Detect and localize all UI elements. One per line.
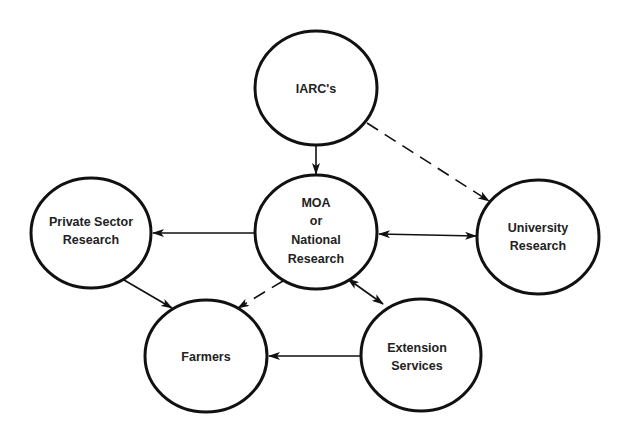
node-university-label-line1: University: [508, 221, 568, 235]
node-extension-label-line2: Services: [391, 359, 442, 373]
node-moa-shape: [255, 175, 377, 289]
node-private-sector: Private Sector Research: [31, 178, 151, 288]
node-iarc-label: IARC's: [296, 82, 337, 96]
edge-moa-extension-bidirectional: [348, 279, 383, 304]
node-moa-label-line3: National: [291, 233, 340, 247]
node-university-label-line2: Research: [510, 239, 566, 253]
node-extension-shape: [361, 299, 481, 411]
node-university-shape: [477, 180, 599, 294]
edge-iarc-to-university: [367, 123, 489, 201]
node-moa-label-line1: MOA: [301, 196, 330, 210]
node-iarc: IARC's: [255, 31, 377, 145]
edge-private-to-farmers: [124, 280, 172, 308]
node-farmers-label: Farmers: [181, 350, 230, 364]
node-farmers: Farmers: [145, 300, 267, 412]
edge-moa-to-farmers: [238, 281, 283, 308]
node-moa-label-line2: or: [310, 214, 323, 228]
node-private-label-line1: Private Sector: [49, 215, 133, 229]
node-moa: MOA or National Research: [255, 175, 377, 289]
diagram-canvas: IARC's MOA or National Research Private …: [0, 0, 619, 433]
node-university: University Research: [477, 180, 599, 294]
node-private-label-line2: Research: [63, 233, 119, 247]
node-extension: Extension Services: [361, 299, 481, 411]
node-moa-label-line4: Research: [288, 252, 344, 266]
edge-moa-university-bidirectional: [379, 234, 476, 236]
node-extension-label-line1: Extension: [387, 341, 447, 355]
